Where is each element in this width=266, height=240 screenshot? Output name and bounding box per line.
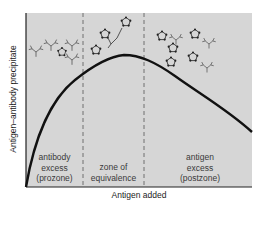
y-axis-label: Antigen–antibody precipitate: [8, 29, 18, 169]
zone-label-equivalence: zone of equivalence: [83, 162, 144, 183]
zone-label-antibody-excess: antibody excess (prozone): [26, 152, 83, 184]
x-axis-label: Antigen added: [26, 190, 252, 200]
zone-label-antigen-excess: antigen excess (postzone): [160, 152, 240, 184]
